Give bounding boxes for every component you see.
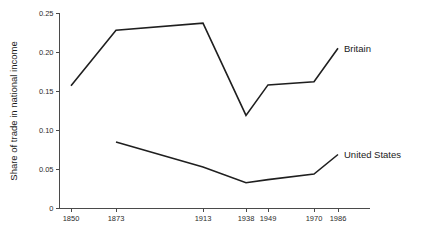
y-axis-title: Share of trade in national income xyxy=(8,41,19,180)
chart-container: Share of trade in national income 0.250.… xyxy=(0,0,430,246)
series-line-britain xyxy=(71,23,338,115)
y-tick-label: 0.05 xyxy=(39,165,54,174)
y-tick-label: 0.25 xyxy=(39,9,54,18)
x-axis-ticks: 1850187319131938194919701986 xyxy=(63,209,347,223)
series-label-united-states: United States xyxy=(344,149,401,160)
series-line-united-states xyxy=(116,142,338,183)
y-tick-label: 0.20 xyxy=(39,48,54,57)
y-tick-label: 0.10 xyxy=(39,126,54,135)
line-chart-svg: Share of trade in national income 0.250.… xyxy=(0,0,430,246)
x-tick-label: 1873 xyxy=(108,214,125,223)
x-tick-label: 1913 xyxy=(195,214,212,223)
series-labels-group: BritainUnited States xyxy=(344,43,401,160)
x-tick-label: 1850 xyxy=(63,214,80,223)
x-tick-label: 1938 xyxy=(238,214,255,223)
x-tick-label: 1949 xyxy=(260,214,277,223)
y-tick-label: 0.15 xyxy=(39,87,54,96)
x-tick-label: 1986 xyxy=(330,214,347,223)
series-group xyxy=(71,23,338,183)
x-tick-label: 1970 xyxy=(306,214,323,223)
y-axis-ticks: 0.250.200.150.100.050 xyxy=(39,9,60,214)
y-tick-label: 0 xyxy=(49,204,53,213)
series-label-britain: Britain xyxy=(344,43,371,54)
